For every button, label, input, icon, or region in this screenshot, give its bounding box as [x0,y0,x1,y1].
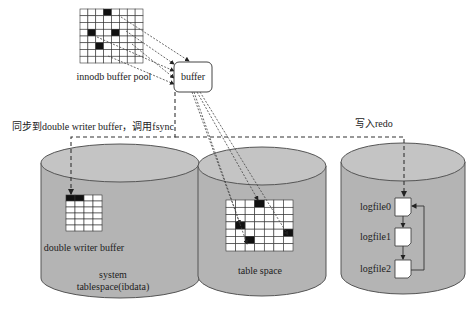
double-writer-page [93,213,102,219]
buffer-pool-page [104,56,112,63]
table-space-grid [226,200,293,251]
table-space-page [226,215,236,222]
buffer-pool-page [127,56,135,63]
buffer-pool-page [96,9,104,16]
double-writer-page [84,201,93,207]
table-space-page [274,229,284,236]
buffer-pool-page [96,56,104,63]
buffer-pool-page [119,50,127,57]
buffer-pool-page [88,56,96,63]
double-writer-dirty-page [66,195,75,201]
table-space-page [274,244,284,251]
logfile1-label: logfile1 [360,231,391,242]
table-space-page [274,222,284,229]
buffer-pool-page [135,16,143,23]
double-writer-page [84,207,93,213]
logfile2-label: logfile2 [360,263,391,274]
table-space-page [255,244,265,251]
table-space-page [255,222,265,229]
table-space-page [274,236,284,243]
buffer-pool-page [119,9,127,16]
table-space-page [226,236,236,243]
buffer-pool-page [88,16,96,23]
buffer-pool-page [112,56,120,63]
buffer-pool-page [104,23,112,30]
table-space-page [255,229,265,236]
buffer-pool-page [119,56,127,63]
buffer-pool-page [88,43,96,50]
buffer-pool-page [80,9,88,16]
buffer-pool-label: innodb buffer pool [77,71,152,82]
buffer-pool-page [88,9,96,16]
logfile0-page [395,198,411,216]
buffer-pool-page [135,43,143,50]
table-space-page [283,244,293,251]
buffer-pool-page [112,23,120,30]
buffer-pool-page [119,16,127,23]
buffer-pool-page [96,23,104,30]
table-space-page [264,236,274,243]
buffer-pool-page [127,50,135,57]
double-writer-page [66,213,75,219]
table-space-page [274,200,284,207]
buffer-pool-page [80,43,88,50]
table-space-page [283,200,293,207]
table-space-page [236,200,246,207]
table-space-page [245,200,255,207]
buffer-pool-dirty-page [112,29,120,36]
buffer-pool-page [135,56,143,63]
buffer-pool-dirty-page [104,9,112,16]
table-space-page [283,236,293,243]
table-space-page [236,207,246,214]
buffer-pool-page [80,23,88,30]
double-writer-dirty-page [75,195,84,201]
double-writer-page [93,201,102,207]
table-space-page [245,244,255,251]
table-space-page [255,236,265,243]
buffer-pool-page [127,43,135,50]
double-writer-buffer-grid [66,195,102,231]
double-writer-page [66,225,75,231]
buffer-pool-page [96,50,104,57]
double-writer-page [84,213,93,219]
double-writer-page [75,225,84,231]
table-space-label: table space [238,265,283,276]
buffer-pool-page [80,50,88,57]
buffer-pool-page [104,29,112,36]
table-space-page [274,215,284,222]
buffer-pool-page [80,36,88,43]
logfile1-page [395,228,411,246]
double-writer-page [84,225,93,231]
buffer-pool-dirty-page [88,29,96,36]
double-writer-page [66,207,75,213]
table-space-page [245,207,255,214]
buffer-pool-page [104,43,112,50]
table-space-page [274,207,284,214]
table-space-dirty-page [245,236,255,243]
buffer-pool-page [80,56,88,63]
buffer-pool-page [127,29,135,36]
buffer-pool-page [104,50,112,57]
redo-label: 写入redo [355,118,393,129]
table-space-page [264,207,274,214]
double-writer-page [93,219,102,225]
table-space-page [226,244,236,251]
double-writer-buffer-label: double writer buffer [44,242,125,253]
buffer-pool-dirty-page [96,43,104,50]
buffer-pool-page [104,16,112,23]
table-space-page [283,207,293,214]
innodb-doublewrite-diagram: innodb buffer pool 同步到double writer buff… [0,0,475,310]
tablespace-ibdata-caption: tablespace(ibdata) [77,281,150,293]
table-space-page [245,229,255,236]
buffer-label: buffer [181,71,206,82]
buffer-pool-page [96,16,104,23]
double-writer-page [93,195,102,201]
table-space-page [264,222,274,229]
sync-label: 同步到double writer buffer，调用fsync [12,121,175,132]
table-space-page [283,215,293,222]
buffer-pool-page [96,36,104,43]
table-space-page [283,222,293,229]
buffer-pool-page [119,36,127,43]
table-space-page [255,215,265,222]
double-writer-page [75,219,84,225]
